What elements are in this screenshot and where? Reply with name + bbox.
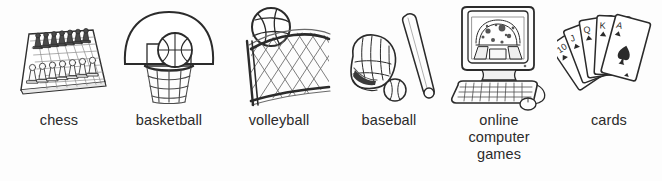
activity-item-cards: 10 J Q K <box>554 0 662 129</box>
volleyball-net-icon <box>224 0 334 112</box>
activity-label: basketball <box>136 112 202 129</box>
baseball-bat-glove-icon <box>334 0 444 112</box>
basketball-hoop-icon <box>114 0 224 112</box>
playing-cards-fan-icon: 10 J Q K <box>554 0 662 112</box>
activity-label: online computer games <box>468 112 529 163</box>
chessboard-with-pieces-icon <box>4 0 114 112</box>
svg-text:K: K <box>599 20 606 30</box>
activity-item-basketball: basketball <box>114 0 224 129</box>
activity-label: volleyball <box>249 112 310 129</box>
activity-item-volleyball: volleyball <box>224 0 334 129</box>
activity-label: baseball <box>362 112 417 129</box>
activity-label: cards <box>591 112 627 129</box>
activity-item-online-computer-games: online computer games <box>444 0 554 163</box>
activity-label: chess <box>40 112 78 129</box>
activity-item-baseball: baseball <box>334 0 444 129</box>
activities-picture-row: chess <box>0 0 662 181</box>
desktop-computer-icon <box>444 0 554 112</box>
activity-item-chess: chess <box>4 0 114 129</box>
